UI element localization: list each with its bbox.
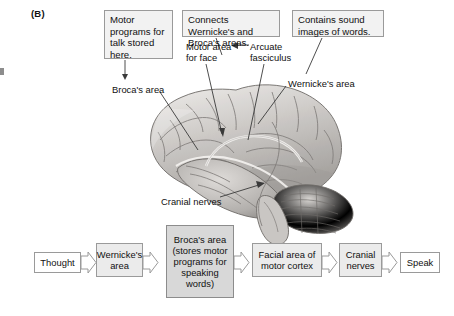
flow-step-speak: Speak — [400, 252, 440, 273]
flow-arrow-1 — [81, 252, 96, 273]
flow-arrow-3 — [234, 252, 249, 273]
flow-arrow-5 — [382, 252, 397, 273]
flow-step-thought: Thought — [34, 252, 81, 273]
flow-step-wernicke: Wernicke's area — [96, 243, 143, 277]
flow-arrow-4 — [322, 252, 337, 273]
flow-arrow-2 — [143, 252, 158, 273]
flow-step-cranial: Cranial nerves — [339, 243, 382, 277]
figure-canvas: (B) — [0, 0, 454, 316]
flow-step-facial: Facial area of motor cortex — [252, 243, 322, 277]
flow-step-broca: Broca's area (stores motor programs for … — [166, 225, 234, 298]
